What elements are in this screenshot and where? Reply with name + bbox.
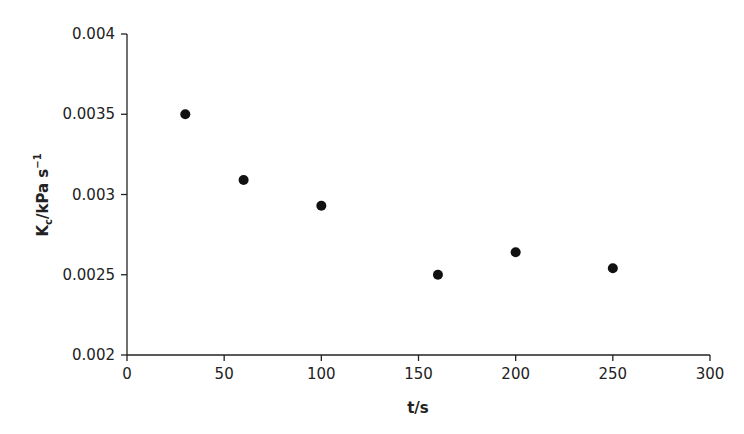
x-tick-label: 150: [404, 365, 433, 383]
x-axis-label: t/s: [407, 399, 429, 417]
y-tick-label: 0.002: [72, 346, 115, 364]
y-tick-label: 0.0035: [63, 105, 116, 123]
data-point: [511, 247, 521, 257]
x-axis: 050100150200250300: [122, 355, 724, 383]
y-tick-label: 0.0025: [63, 266, 116, 284]
x-tick-label: 250: [599, 365, 628, 383]
data-point: [316, 201, 326, 211]
y-tick-label: 0.003: [72, 186, 115, 204]
x-tick-label: 100: [307, 365, 336, 383]
y-axis: 0.0020.00250.0030.00350.004: [63, 25, 128, 364]
data-points: [180, 109, 618, 280]
y-label-units: /kPa s: [34, 169, 52, 219]
x-tick-label: 200: [501, 365, 530, 383]
y-tick-label: 0.004: [72, 25, 115, 43]
x-tick-label: 300: [696, 365, 725, 383]
data-point: [433, 270, 443, 280]
y-axis-label: Kc/kPa s−1: [32, 153, 54, 236]
data-point: [608, 263, 618, 273]
data-point: [239, 175, 249, 185]
x-tick-label: 0: [122, 365, 132, 383]
data-point: [180, 109, 190, 119]
scatter-chart: 0.0020.00250.0030.00350.004 050100150200…: [0, 0, 744, 434]
y-label-superscript: −1: [32, 153, 43, 168]
x-tick-label: 50: [215, 365, 234, 383]
